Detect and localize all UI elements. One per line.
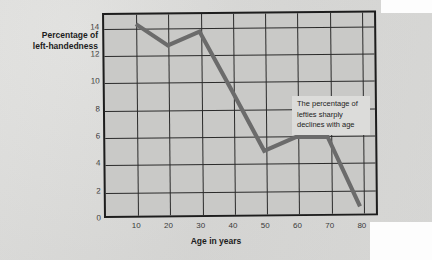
x-tick-label: 70 <box>325 221 334 230</box>
x-tick-label: 50 <box>261 221 270 230</box>
y-tick-label: 4 <box>96 159 101 168</box>
x-tick-label: 60 <box>293 221 302 230</box>
page-corner-panel <box>370 222 432 260</box>
x-axis-title: Age in years <box>0 236 432 246</box>
y-tick-label: 14 <box>90 22 99 31</box>
annotation-line-1: The percentage of <box>297 99 366 110</box>
annotation-line-2: lefties sharply <box>297 110 366 121</box>
x-tick-label: 40 <box>228 221 237 230</box>
annotation-callout: The percentage of lefties sharply declin… <box>292 96 370 135</box>
page-top-panel <box>381 0 432 13</box>
y-axis-ticks: 02468101214 <box>80 13 101 218</box>
annotation-line-3: declines with age <box>297 120 366 131</box>
y-tick-label: 10 <box>91 77 100 86</box>
y-tick-label: 0 <box>97 214 102 223</box>
x-tick-label: 20 <box>164 221 173 230</box>
y-tick-label: 6 <box>96 132 101 141</box>
y-tick-label: 2 <box>96 186 101 195</box>
y-tick-label: 8 <box>95 104 100 113</box>
x-tick-label: 10 <box>132 221 141 230</box>
y-tick-label: 12 <box>90 50 99 59</box>
x-tick-label: 30 <box>196 221 205 230</box>
x-tick-label: 80 <box>357 221 366 230</box>
chart-figure: Percentage of left-handedness 0246810121… <box>0 0 432 260</box>
x-axis-ticks: 102030405060708090 <box>104 221 410 235</box>
